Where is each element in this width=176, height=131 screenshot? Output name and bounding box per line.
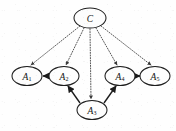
node-a4[interactable]: A4 [105, 67, 135, 86]
node-a5[interactable]: A5 [140, 67, 170, 86]
node-c-label: C [87, 14, 94, 24]
solid-edge-a3-a2 [68, 86, 80, 103]
dotted-edge-c-a3 [90, 29, 91, 99]
node-group: CA1A2A3A4A5 [12, 8, 170, 120]
node-a1[interactable]: A1 [12, 67, 42, 86]
dotted-edge-c-a4 [96, 28, 117, 65]
dotted-edge-c-a5 [101, 26, 151, 65]
dotted-edge-group [31, 26, 151, 99]
diagram-canvas: CA1A2A3A4A5 [0, 0, 176, 131]
node-a2[interactable]: A2 [49, 67, 79, 86]
solid-edge-a3-a4 [104, 86, 116, 103]
dotted-edge-c-a1 [31, 26, 80, 65]
node-a3[interactable]: A3 [77, 101, 107, 120]
node-c[interactable]: C [74, 8, 106, 28]
dotted-edge-c-a2 [66, 28, 84, 65]
graphical-model-figure: CA1A2A3A4A5 [0, 0, 176, 131]
